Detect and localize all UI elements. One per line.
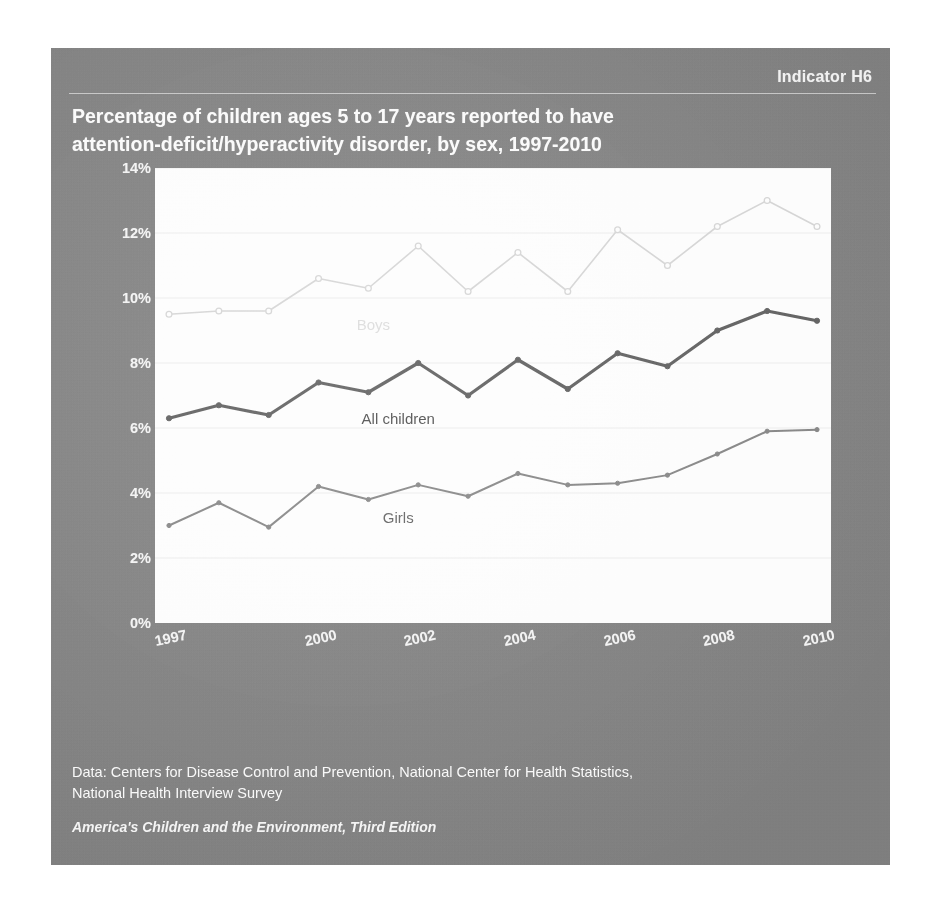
- data-point-marker: [515, 250, 521, 256]
- data-point-marker: [565, 289, 571, 295]
- data-point-marker: [616, 481, 620, 485]
- data-point-marker: [366, 390, 371, 395]
- data-point-marker: [166, 311, 172, 317]
- y-axis-tick-6pct: 6%: [97, 420, 151, 436]
- data-point-marker: [715, 452, 719, 456]
- data-point-marker: [366, 497, 370, 501]
- data-point-marker: [814, 224, 820, 230]
- data-point-marker: [466, 494, 470, 498]
- figure-footer: Data: Centers for Disease Control and Pr…: [72, 762, 832, 836]
- x-axis-tick-2000: 2000: [303, 627, 338, 649]
- y-axis-tick-14pct: 14%: [97, 160, 151, 176]
- plot-wrapper: 0%2%4%6%8%10%12%14% 19972000200220042006…: [51, 48, 890, 865]
- data-point-marker: [167, 523, 171, 527]
- y-axis-tick-labels: 0%2%4%6%8%10%12%14%: [91, 168, 151, 623]
- data-point-marker: [266, 412, 271, 417]
- data-point-marker: [267, 525, 271, 529]
- data-point-marker: [415, 243, 421, 249]
- line-chart-svg: [155, 168, 831, 623]
- data-point-marker: [316, 276, 322, 282]
- x-axis-tick-2008: 2008: [702, 627, 737, 649]
- figure-panel: Indicator H6 Percentage of children ages…: [51, 48, 890, 865]
- data-point-marker: [216, 403, 221, 408]
- data-point-marker: [814, 318, 819, 323]
- data-point-marker: [615, 351, 620, 356]
- data-point-marker: [416, 360, 421, 365]
- y-axis-tick-8pct: 8%: [97, 355, 151, 371]
- data-point-marker: [465, 393, 470, 398]
- data-point-marker: [765, 429, 769, 433]
- data-point-marker: [516, 471, 520, 475]
- series-label-girls: Girls: [383, 509, 414, 526]
- publication-note: America's Children and the Environment, …: [72, 819, 832, 835]
- data-point-marker: [665, 364, 670, 369]
- x-axis-tick-2006: 2006: [602, 627, 637, 649]
- data-point-marker: [266, 308, 272, 314]
- data-point-marker: [316, 380, 321, 385]
- y-axis-tick-10pct: 10%: [97, 290, 151, 306]
- data-point-marker: [216, 308, 222, 314]
- data-point-marker: [316, 484, 320, 488]
- data-point-marker: [365, 285, 371, 291]
- data-point-marker: [714, 224, 720, 230]
- series-line: [169, 201, 817, 315]
- source-note-line-2: National Health Interview Survey: [72, 783, 832, 805]
- data-point-marker: [815, 428, 819, 432]
- data-point-marker: [765, 308, 770, 313]
- data-point-marker: [217, 501, 221, 505]
- plot-area: [155, 168, 831, 623]
- x-axis-tick-2002: 2002: [402, 627, 437, 649]
- data-point-marker: [665, 263, 671, 269]
- series-girls: [167, 428, 819, 530]
- data-point-marker: [416, 483, 420, 487]
- y-axis-tick-12pct: 12%: [97, 225, 151, 241]
- source-note: Data: Centers for Disease Control and Pr…: [72, 762, 832, 806]
- series-label-boys: Boys: [357, 316, 390, 333]
- source-note-line-1: Data: Centers for Disease Control and Pr…: [72, 762, 832, 784]
- series-label-all-children: All children: [362, 410, 435, 427]
- y-axis-tick-0pct: 0%: [97, 615, 151, 631]
- data-point-marker: [515, 357, 520, 362]
- x-axis-tick-2004: 2004: [502, 627, 537, 649]
- series-all-children: [166, 308, 819, 420]
- x-axis-tick-1997: 1997: [153, 627, 188, 649]
- data-point-marker: [465, 289, 471, 295]
- data-point-marker: [566, 483, 570, 487]
- data-point-marker: [615, 227, 621, 233]
- data-point-marker: [665, 473, 669, 477]
- data-point-marker: [715, 328, 720, 333]
- series-line: [169, 430, 817, 528]
- data-point-marker: [764, 198, 770, 204]
- x-axis-tick-labels: 1997200020022004200620082010: [155, 626, 831, 668]
- y-axis-tick-4pct: 4%: [97, 485, 151, 501]
- data-point-marker: [166, 416, 171, 421]
- series-line: [169, 311, 817, 418]
- y-axis-tick-2pct: 2%: [97, 550, 151, 566]
- data-point-marker: [565, 386, 570, 391]
- x-axis-tick-2010: 2010: [801, 627, 836, 649]
- series-boys: [166, 198, 820, 318]
